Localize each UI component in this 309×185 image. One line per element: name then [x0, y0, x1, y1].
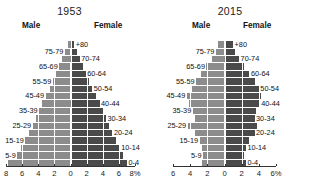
age-group-label: 15-19	[155, 137, 198, 145]
bar-male	[195, 130, 224, 137]
bar-female	[225, 115, 255, 122]
age-group-label: 10-14	[121, 144, 140, 152]
bar-male	[50, 85, 71, 92]
age-group-label: 50-54	[94, 85, 113, 93]
age-group-label: 5-9	[155, 152, 202, 160]
age-group-label: 30-34	[256, 115, 275, 123]
age-group-label: 50-54	[260, 85, 279, 93]
pyramid-row	[6, 137, 135, 144]
pyramid-row	[173, 41, 276, 48]
bar-male	[192, 85, 225, 92]
age-group-label: +80	[235, 41, 247, 49]
bar-male	[187, 93, 225, 100]
age-group-label: 40-44	[261, 100, 280, 108]
bar-male	[195, 115, 224, 122]
bar-female	[71, 130, 113, 137]
bar-male	[39, 108, 70, 115]
bar-female	[71, 100, 100, 107]
bar-female	[71, 63, 83, 70]
age-group-label: 70-74	[81, 55, 100, 63]
bar-female	[225, 137, 250, 144]
age-group-label: 75-79	[0, 48, 63, 56]
axis-tick	[87, 164, 88, 166]
chart-panel-2015: 2015 Male Female +8075-7970-7465-6960-64…	[155, 0, 309, 185]
bar-female	[225, 56, 240, 63]
bar-female	[225, 93, 262, 100]
age-group-label: 20-24	[256, 129, 275, 137]
axis-tick	[103, 164, 104, 166]
bar-male	[29, 130, 70, 137]
pyramid-row	[6, 71, 135, 78]
chart-panel-1953: 1953 Male Female +8075-7970-7465-6960-64…	[0, 0, 155, 185]
bar-male	[203, 152, 224, 159]
axis-tick	[38, 164, 39, 166]
chart-title-1953: 1953	[0, 5, 147, 17]
bar-male	[188, 122, 225, 129]
bar-female	[225, 130, 255, 137]
age-group-label: 55-59	[0, 78, 51, 86]
axis-tick-label: 8%	[125, 169, 145, 178]
bar-female	[71, 41, 75, 48]
axis-tick	[242, 164, 243, 166]
bar-male	[62, 56, 70, 63]
bar-female	[225, 159, 246, 166]
bar-female	[71, 71, 86, 78]
bar-female	[225, 48, 235, 55]
bar-female	[225, 100, 260, 107]
bar-male	[216, 48, 225, 55]
age-group-label: 60-64	[87, 70, 106, 78]
age-group-label: 65-69	[0, 63, 58, 71]
bar-male	[56, 71, 71, 78]
axis-tick	[276, 164, 277, 166]
bar-male	[189, 100, 224, 107]
bar-female	[71, 48, 77, 55]
bar-female	[71, 108, 103, 115]
age-group-label: 45-49	[0, 92, 44, 100]
age-group-label: 60-64	[251, 70, 270, 78]
age-group-label: 25-29	[155, 122, 186, 130]
bar-female	[71, 93, 97, 100]
axis-tick	[22, 164, 23, 166]
axis-tick	[207, 164, 208, 166]
bar-male	[202, 145, 224, 152]
bar-male	[201, 71, 224, 78]
age-group-label: 75-79	[155, 48, 214, 56]
age-group-label: 55-59	[155, 78, 195, 86]
bar-male	[196, 78, 224, 85]
age-group-label: 45-49	[155, 92, 185, 100]
bar-female	[225, 78, 255, 85]
bar-female	[71, 85, 93, 92]
axis-tick-label: 6%	[266, 169, 286, 178]
bar-female	[71, 137, 117, 144]
bar-female	[225, 108, 257, 115]
age-group-label: 15-19	[0, 137, 24, 145]
bar-male	[193, 108, 225, 115]
axis-tick	[259, 164, 260, 166]
bar-female	[71, 122, 110, 129]
age-group-label: +80	[76, 41, 88, 49]
axis-tick	[6, 164, 7, 166]
axis-tick	[54, 164, 55, 166]
bar-male	[42, 100, 70, 107]
axis-tick	[190, 164, 191, 166]
bar-male	[59, 63, 70, 70]
bar-female	[71, 78, 90, 85]
legend-male-2015: Male	[192, 21, 210, 30]
legend-male-1953: Male	[22, 21, 40, 30]
bar-female	[225, 71, 250, 78]
axis-tick	[135, 164, 136, 166]
age-group-label: 20-24	[114, 129, 133, 137]
bar-male	[36, 115, 71, 122]
bar-male	[202, 159, 224, 166]
axis-tick	[225, 164, 226, 166]
axis-baseline	[173, 166, 276, 167]
age-group-label: 30-34	[107, 115, 126, 123]
bar-female	[225, 85, 259, 92]
bar-female	[225, 152, 245, 159]
pyramid-row	[6, 152, 135, 159]
bar-male	[212, 56, 225, 63]
bar-female	[225, 41, 234, 48]
age-group-label: 35-39	[155, 107, 191, 115]
pyramid-row	[6, 56, 135, 63]
age-group-label: 65-69	[155, 63, 205, 71]
